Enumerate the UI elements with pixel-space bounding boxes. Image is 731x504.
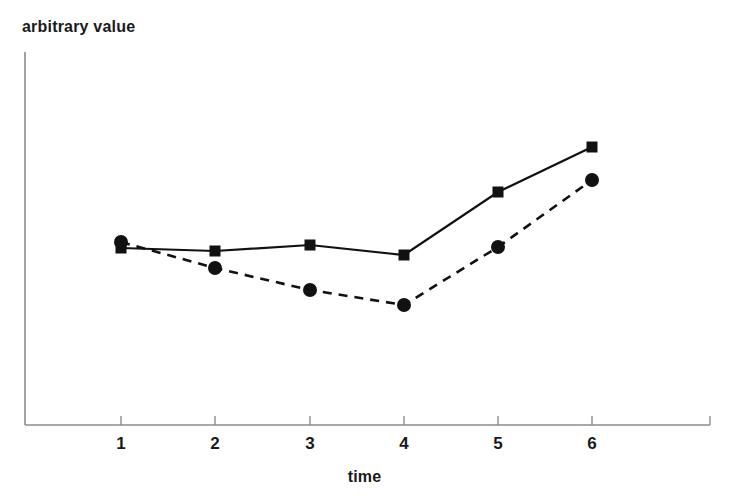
axes-group	[25, 52, 710, 425]
data-point-marker	[491, 240, 505, 254]
data-series-group	[114, 142, 599, 313]
data-point-marker	[493, 187, 504, 198]
data-point-marker	[303, 283, 317, 297]
x-axis-title: time	[0, 468, 731, 486]
x-axis-tick-label: 3	[290, 434, 330, 454]
x-axis-tick-label: 1	[101, 434, 141, 454]
x-axis-tick-label: 5	[478, 434, 518, 454]
data-point-marker	[399, 250, 410, 261]
chart-plot-area	[0, 0, 731, 504]
series-line-dashed-circle-series	[121, 180, 592, 305]
data-point-marker	[305, 240, 316, 251]
x-axis-ticks	[121, 416, 710, 425]
data-point-marker	[587, 142, 598, 153]
data-point-marker	[585, 173, 599, 187]
chart-figure: arbitrary value 123456 time	[0, 0, 731, 504]
data-point-marker	[210, 246, 221, 257]
x-axis-tick-label: 6	[572, 434, 612, 454]
data-point-marker	[397, 298, 411, 312]
series-line-solid-square-series	[121, 147, 592, 255]
x-axis-tick-label: 2	[195, 434, 235, 454]
x-axis-title-text: time	[348, 468, 382, 485]
x-axis-tick-label: 4	[384, 434, 424, 454]
data-point-marker	[114, 235, 128, 249]
data-point-marker	[208, 261, 222, 275]
